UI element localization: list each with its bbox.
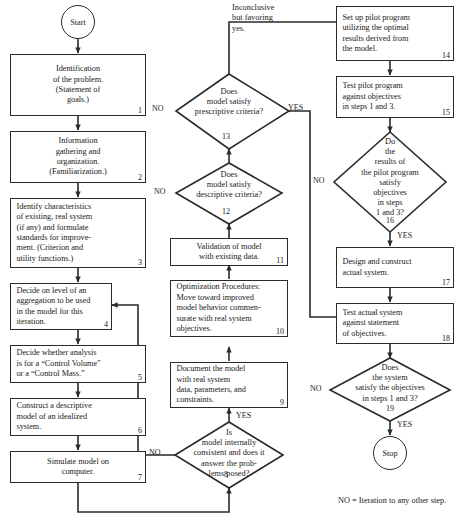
process-box-5-text: Decide whether analysisis for a “Control… [14, 348, 143, 379]
terminator-stop-label: Stop [382, 449, 397, 458]
process-box-10-number: 10 [276, 327, 284, 336]
inconclusive-note: Inconclusivebut favoringyes. [232, 3, 302, 34]
process-box-17[interactable]: Design and constructactual system. 17 [336, 247, 454, 288]
process-box-1-text: Identificationof the problem.(Statement … [15, 64, 141, 106]
process-box-15-text: Test pilot programagainst objectivesin s… [340, 81, 451, 112]
process-box-10[interactable]: Optimization Procedures:Move toward impr… [170, 280, 288, 337]
process-box-6-text: Construct a descriptivemodel of an ideal… [14, 401, 143, 432]
terminator-start[interactable]: Start [61, 5, 95, 39]
process-box-15-number: 15 [442, 108, 450, 117]
process-box-9-text: Document the modelwith real systemdata, … [174, 364, 285, 406]
process-box-9-number: 9 [280, 398, 284, 407]
process-box-5[interactable]: Decide whether analysisis for a “Control… [10, 345, 146, 383]
process-box-17-text: Design and constructactual system. [340, 257, 451, 278]
process-box-10-text: Optimization Procedures:Move toward impr… [174, 282, 285, 334]
process-box-7[interactable]: Simulate model oncomputer. 7 [10, 451, 146, 483]
terminator-stop[interactable]: Stop [373, 436, 407, 470]
process-box-2-text: Informationgathering andorganization.(Fa… [15, 136, 141, 178]
label-19-yes: YES [397, 420, 412, 430]
process-box-18-text: Test actual systemagainst statementof ob… [340, 308, 451, 339]
process-box-4-number: 4 [104, 320, 108, 329]
label-16-no: NO [313, 176, 325, 186]
legend-note: NO = Iteration to any other step. [338, 496, 446, 506]
process-box-2-number: 2 [138, 173, 142, 182]
process-box-17-number: 17 [442, 278, 450, 287]
terminator-start-label: Start [70, 18, 86, 27]
label-13-yes: YES [288, 103, 303, 113]
process-box-6[interactable]: Construct a descriptivemodel of an ideal… [10, 398, 146, 436]
process-box-1-number: 1 [138, 106, 142, 115]
process-box-18[interactable]: Test actual systemagainst statementof ob… [336, 303, 454, 344]
process-box-5-number: 5 [138, 373, 142, 382]
diamond-19-number: 19 [378, 404, 402, 413]
label-13-no: NO [152, 104, 164, 114]
process-box-14[interactable]: Set up pilot programutilizing the optima… [336, 6, 454, 61]
process-box-3[interactable]: Identify characteristicsof existing, rea… [10, 198, 146, 268]
process-box-7-number: 7 [138, 473, 142, 482]
process-box-15[interactable]: Test pilot programagainst objectivesin s… [336, 76, 454, 118]
process-box-14-number: 14 [442, 51, 450, 60]
process-box-1[interactable]: Identificationof the problem.(Statement … [10, 54, 146, 116]
flowchart-canvas: Start Stop Identificationof the problem.… [0, 0, 461, 523]
process-box-7-text: Simulate model oncomputer. [15, 457, 141, 478]
process-box-3-number: 3 [138, 258, 142, 267]
label-8-yes: YES [236, 411, 251, 421]
process-box-11-number: 11 [276, 256, 284, 265]
label-16-yes: YES [397, 231, 412, 241]
label-8-no: NO [149, 448, 161, 458]
process-box-9[interactable]: Document the modelwith real systemdata, … [170, 362, 288, 408]
process-box-4[interactable]: Decide on level of anaggregation to be u… [10, 283, 112, 330]
process-box-4-text: Decide on level of anaggregation to be u… [14, 286, 109, 328]
process-box-14-text: Set up pilot programutilizing the optima… [340, 13, 451, 55]
label-19-no: NO [310, 384, 322, 394]
process-box-2[interactable]: Informationgathering andorganization.(Fa… [10, 131, 146, 183]
label-12-no: NO [154, 187, 166, 197]
diamond-13-number: 13 [214, 132, 238, 141]
diamond-16-number: 16 [378, 216, 402, 225]
diamond-12-number: 12 [214, 207, 238, 216]
diamond-8-number: 8 [214, 470, 238, 479]
process-box-6-number: 6 [138, 426, 142, 435]
edge-7-to-8 [78, 483, 229, 512]
process-box-11[interactable]: Validation of modelwith existing data. 1… [170, 238, 288, 266]
process-box-11-text: Validation of modelwith existing data. [175, 242, 283, 263]
process-box-18-number: 18 [442, 334, 450, 343]
process-box-3-text: Identify characteristicsof existing, rea… [14, 202, 143, 264]
